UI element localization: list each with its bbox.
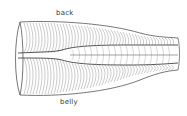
lower-septum-line <box>18 58 178 65</box>
fish-muscle-diagram: back belly <box>0 0 187 116</box>
label-back: back <box>56 10 73 17</box>
label-belly: belly <box>60 99 78 106</box>
upper-septum-line <box>18 45 178 53</box>
upper-myomeres <box>24 23 174 53</box>
tail-end-edge <box>178 38 180 70</box>
front-cross-section-ellipse <box>16 22 24 95</box>
fish-body-drawing <box>0 0 187 116</box>
